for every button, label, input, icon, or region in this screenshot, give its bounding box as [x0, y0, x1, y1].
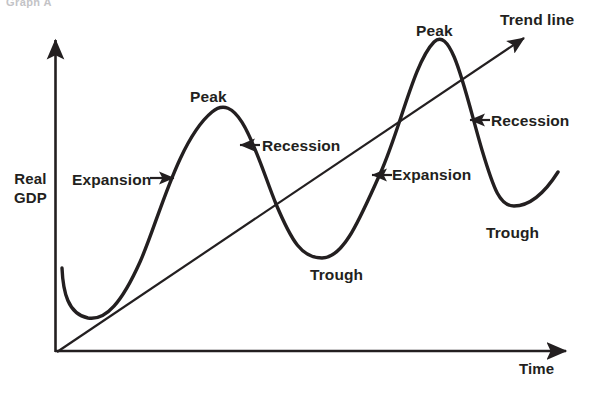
annotation-peak-2: Peak [416, 22, 453, 40]
annotation-expansion-1: Expansion [72, 171, 151, 189]
y-axis-label-line-2: GDP [14, 189, 47, 208]
annotation-trend-line: Trend line [500, 11, 574, 29]
x-axis-label: Time [519, 360, 554, 377]
y-axis-label-line-1: Real [14, 170, 47, 189]
annotation-trough-2: Trough [486, 224, 539, 242]
annotation-recession-2: Recession [491, 112, 569, 130]
y-axis-label: Real GDP [14, 170, 47, 208]
business-cycle-figure: Graph A Real GDP Time [0, 0, 596, 393]
annotation-trough-1: Trough [310, 266, 363, 284]
annotation-expansion-2: Expansion [392, 166, 471, 184]
annotation-peak-1: Peak [190, 88, 227, 106]
trend-line [57, 38, 524, 352]
annotation-recession-1: Recession [262, 137, 340, 155]
business-cycle-chart-canvas [0, 0, 596, 393]
